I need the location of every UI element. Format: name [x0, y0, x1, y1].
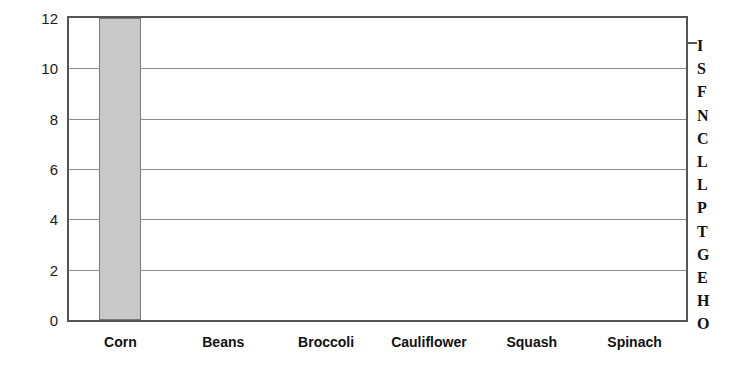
- side-label-letter: P: [697, 196, 707, 219]
- side-label-letter: N: [697, 104, 709, 127]
- plot-area: [67, 16, 688, 322]
- side-vertical-label: ISFNCLLPTGEHO: [697, 34, 725, 335]
- side-label-letter: E: [697, 266, 708, 289]
- gridline: [69, 270, 686, 271]
- gridline: [69, 219, 686, 220]
- x-axis-tick-label: Beans: [202, 334, 244, 350]
- side-label-letter: I: [697, 34, 703, 57]
- bar-chart: 024681012 CornBeansBroccoliCauliflowerSq…: [0, 0, 749, 369]
- x-axis-tick-label: Broccoli: [298, 334, 354, 350]
- side-label-letter: L: [697, 150, 708, 173]
- x-axis-tick-label: Cauliflower: [391, 334, 466, 350]
- side-label-letter: G: [697, 243, 709, 266]
- x-axis-tick-label: Squash: [506, 334, 557, 350]
- gridline: [69, 68, 686, 69]
- side-label-letter: O: [697, 312, 709, 335]
- y-axis-tick-label: 8: [50, 111, 58, 126]
- y-axis-tick-label: 12: [41, 11, 58, 26]
- side-label-letter: S: [697, 57, 706, 80]
- x-axis-tick-label: Spinach: [607, 334, 661, 350]
- gridline: [69, 169, 686, 170]
- gridline: [69, 119, 686, 120]
- side-label-letter: T: [697, 220, 708, 243]
- y-axis-tick-label: 4: [50, 212, 58, 227]
- y-axis-tick-label: 6: [50, 162, 58, 177]
- y-axis-tick-label: 2: [50, 262, 58, 277]
- y-axis-tick-label: 0: [50, 313, 58, 328]
- side-label-letter: L: [697, 173, 708, 196]
- x-axis-tick-label: Corn: [104, 334, 137, 350]
- side-label-letter: C: [697, 127, 709, 150]
- side-label-letter: F: [697, 80, 707, 103]
- y-axis-tick-label: 10: [41, 61, 58, 76]
- side-label-letter: H: [697, 289, 709, 312]
- bar: [99, 18, 141, 320]
- top-right-tick-mark: [686, 42, 697, 44]
